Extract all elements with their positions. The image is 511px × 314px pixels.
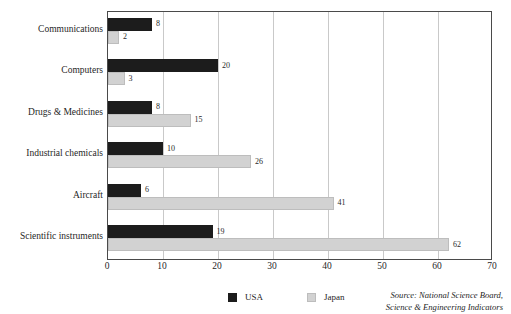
- plot-area: 8220381510266411962: [107, 11, 492, 260]
- legend-label: Japan: [324, 293, 345, 302]
- bar-group: 1962: [108, 225, 491, 251]
- bar-value-label: 8: [156, 103, 160, 111]
- clipped-title: [0, 0, 511, 3]
- bar-value-label: 8: [156, 20, 160, 28]
- bar-value-label: 10: [167, 145, 175, 153]
- bar-japan: [108, 72, 125, 85]
- bar-value-label: 6: [145, 186, 149, 194]
- x-axis-tick-label: 60: [432, 262, 442, 272]
- legend-item-usa: USA: [228, 293, 263, 302]
- source-note-line-1: Source: National Science Board,: [353, 289, 503, 301]
- y-axis-label: Computers: [61, 66, 103, 76]
- y-axis-label: Scientific instruments: [20, 232, 103, 242]
- bar-group: 82: [108, 18, 491, 44]
- bar-value-label: 19: [217, 228, 225, 236]
- bar-japan: [108, 197, 334, 210]
- bar-usa: [108, 18, 152, 31]
- legend-swatch-icon: [228, 293, 237, 302]
- bar-value-label: 62: [453, 241, 461, 249]
- x-axis-tick-label: 70: [487, 262, 497, 272]
- legend-item-japan: Japan: [307, 293, 345, 302]
- source-note: Source: National Science Board, Science …: [353, 289, 503, 314]
- bar-value-label: 2: [123, 33, 127, 41]
- bar-chart: 8220381510266411962 CommunicationsComput…: [0, 0, 511, 314]
- bar-group: 815: [108, 101, 491, 127]
- bar-group: 641: [108, 184, 491, 210]
- y-axis-label: Drugs & Medicines: [28, 108, 103, 118]
- y-axis-label: Industrial chemicals: [26, 149, 103, 159]
- bar-japan: [108, 155, 251, 168]
- x-axis-tick-label: 40: [322, 262, 332, 272]
- x-axis-tick-label: 10: [157, 262, 167, 272]
- bar-usa: [108, 59, 218, 72]
- bar-japan: [108, 31, 119, 44]
- x-axis-tick-label: 0: [105, 262, 110, 272]
- bar-usa: [108, 101, 152, 114]
- x-axis-ticks: 010203040506070: [107, 262, 492, 278]
- bar-value-label: 20: [222, 62, 230, 70]
- x-axis-tick-label: 30: [267, 262, 277, 272]
- bar-value-label: 3: [129, 75, 133, 83]
- y-axis-label: Communications: [38, 25, 103, 35]
- y-axis-labels: CommunicationsComputersDrugs & Medicines…: [0, 11, 103, 260]
- bar-group: 203: [108, 59, 491, 85]
- bar-japan: [108, 238, 449, 251]
- legend-label: USA: [245, 293, 263, 302]
- bar-japan: [108, 114, 191, 127]
- source-note-line-2: Science & Engineering Indicators: [353, 301, 503, 313]
- legend: USAJapan: [228, 291, 345, 303]
- x-axis-tick-label: 50: [377, 262, 387, 272]
- bar-rows: 8220381510266411962: [108, 12, 491, 259]
- bar-value-label: 26: [255, 158, 263, 166]
- bar-group: 1026: [108, 142, 491, 168]
- bar-usa: [108, 225, 213, 238]
- bar-value-label: 41: [338, 199, 346, 207]
- legend-swatch-icon: [307, 293, 316, 302]
- bar-value-label: 15: [195, 116, 203, 124]
- bar-usa: [108, 142, 163, 155]
- x-axis-tick-label: 20: [212, 262, 222, 272]
- bar-usa: [108, 184, 141, 197]
- y-axis-label: Aircraft: [73, 191, 103, 201]
